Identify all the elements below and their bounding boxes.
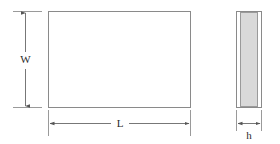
front-view-rectangle [49, 12, 191, 108]
side-view-shaded-core [241, 13, 258, 107]
height-dimension-label: h [246, 129, 252, 141]
dimension-diagram: W L h [0, 0, 280, 144]
diagram-canvas: W L h [0, 0, 280, 144]
width-dimension-label: W [20, 53, 31, 65]
length-dimension-label: L [117, 117, 124, 129]
